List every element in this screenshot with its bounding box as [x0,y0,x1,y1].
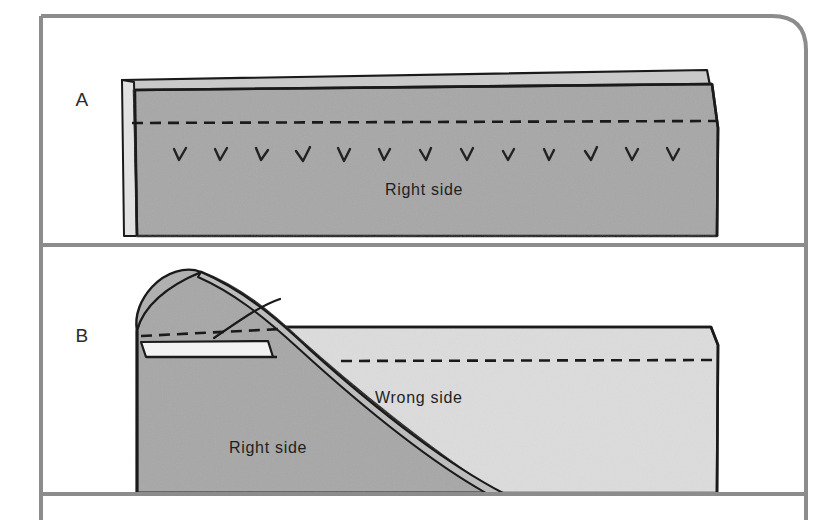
sewing-diagram-figure: A B Right side Wrong side Right side [0,0,820,520]
panel-b-right-side-label: Right side [229,439,307,456]
panel-a-artwork [122,70,718,236]
panel-a-letter: A [75,89,88,110]
panel-b-seam-allowance [141,341,273,357]
figure-canvas: A B Right side Wrong side Right side [0,0,820,520]
panel-b-wrong-side-label: Wrong side [375,389,463,406]
panel-b-letter: B [75,325,88,346]
panel-a-right-side-label: Right side [385,181,463,198]
